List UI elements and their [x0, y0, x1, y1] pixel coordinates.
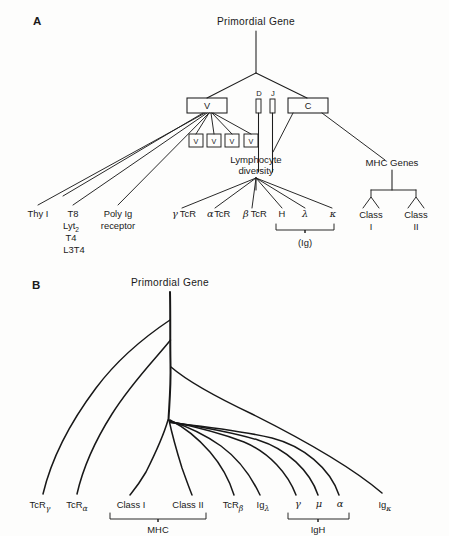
leaf-class2-line2: II — [413, 222, 418, 232]
branch-c-to-mhc — [322, 113, 385, 160]
leaf-t8: T8 — [68, 208, 79, 219]
branch-diversity-to-h — [256, 178, 282, 208]
branch-v-to-polyig — [118, 113, 209, 205]
branch-v-to-leftgroup-extra — [63, 113, 203, 196]
leaf-class1-line1: Class — [359, 209, 383, 220]
v-repeat-box-2-label: V — [212, 137, 217, 146]
branch-root-to-v — [207, 73, 256, 98]
v-repeat-box-3-label: V — [230, 137, 235, 146]
igh-bracket-label: IgH — [311, 524, 326, 535]
ig-bracket — [276, 224, 334, 233]
panel-a-label: A — [33, 15, 41, 27]
leaf-l3t4: L3T4 — [63, 244, 84, 255]
leaf-kappa: κ — [329, 208, 337, 219]
branch-v-to-vrep-2 — [211, 113, 214, 134]
branch-diversity-to-btcr — [252, 178, 256, 208]
gene-segment-box-j — [270, 99, 275, 113]
left-leaf-group: Thy I T8 Lyt2 T4 L3T4 Poly Ig receptor — [28, 208, 136, 255]
v-repeat-box-1-label: V — [194, 137, 199, 146]
branch-v-to-vrep-4 — [213, 113, 251, 134]
ig-bracket-label: (Ig) — [298, 237, 312, 248]
branch-diversity-to-kappa — [256, 178, 332, 208]
v-repeat-box-group: V V V V — [189, 134, 258, 147]
leaf-h: H — [279, 208, 286, 219]
diversity-leaf-group: γTcR αTcR βTcR H λ κ — [172, 208, 337, 219]
gene-segment-box-c-label: C — [305, 101, 312, 111]
gene-segment-box-d-label: D — [256, 89, 262, 98]
diversity-node-line1: Lymphocyte — [230, 154, 281, 165]
trunk — [169, 292, 171, 420]
leaf-igh-alpha: α — [337, 498, 344, 509]
leaf-class-2: Class II — [172, 499, 203, 510]
leaf-beta-tcr: βTcR — [242, 208, 267, 219]
diversity-node-line2: diversity — [238, 165, 273, 176]
leaf-lyt2: Lyt2 — [63, 220, 79, 233]
leaf-igh-mu: μ — [316, 498, 322, 509]
branch-tcr-alpha — [77, 340, 171, 494]
branch-c-to-diversity — [273, 113, 293, 152]
panel-a-root-label: Primordial Gene — [217, 16, 295, 27]
branch-tcr-gamma — [43, 320, 170, 494]
panel-b-label: B — [32, 279, 40, 291]
leaf-tcr-alpha: TcRα — [66, 499, 88, 513]
figure-root: A Primordial Gene V D J C V — [0, 0, 449, 536]
branch-v-to-t8 — [73, 113, 207, 205]
class1-caret — [363, 197, 379, 208]
leaf-gamma-tcr: γTcR — [172, 208, 196, 219]
leaf-lambda: λ — [301, 208, 308, 219]
leaf-class1-line2: I — [370, 222, 373, 232]
leaf-t4: T4 — [66, 232, 77, 243]
gene-segment-box-v-label: V — [204, 101, 211, 111]
leaf-class2-line1: Class — [404, 209, 428, 220]
gene-segment-box-j-label: J — [271, 89, 275, 98]
mhc-bracket — [110, 513, 206, 522]
branch-class-1 — [130, 420, 168, 495]
mhc-node-label: MHC Genes — [366, 157, 419, 168]
leaf-alpha-tcr: αTcR — [207, 208, 230, 219]
leaf-polyig-line1: Poly Ig — [104, 208, 133, 219]
leaf-class-1: Class I — [117, 499, 146, 510]
class2-caret — [408, 197, 424, 208]
leaf-igh-gamma: γ — [295, 498, 301, 509]
panel-b-root-label: Primordial Gene — [131, 277, 209, 288]
panel-b: B Primordial Gene TcRγ TcRα Class I Clas — [0, 268, 449, 536]
gene-segment-box-d — [256, 99, 261, 113]
leaf-ig-kappa: Igκ — [379, 499, 392, 513]
leaf-polyig-line2: receptor — [101, 220, 135, 231]
branch-ig-kappa — [171, 367, 382, 493]
leaf-thy1: Thy I — [28, 208, 49, 219]
branch-root-to-c — [256, 73, 307, 98]
branch-diversity-to-atcr — [215, 178, 256, 208]
branch-diversity-to-lambda — [256, 178, 305, 208]
panel-a: A Primordial Gene V D J C V — [0, 0, 449, 268]
branch-diversity-to-gtcr — [182, 178, 256, 208]
v-repeat-box-4-label: V — [249, 137, 254, 146]
branch-v-to-vrep-3 — [212, 113, 232, 134]
leaf-ig-lambda: Igλ — [257, 499, 270, 513]
leaf-tcr-beta: TcRβ — [223, 499, 244, 513]
igh-bracket — [288, 513, 349, 522]
mhc-bracket-label: MHC — [147, 524, 169, 535]
leaf-tcr-gamma: TcRγ — [30, 499, 51, 513]
panel-b-leaf-group: TcRγ TcRα Class I Class II TcRβ Igλ γ μ … — [30, 498, 392, 513]
